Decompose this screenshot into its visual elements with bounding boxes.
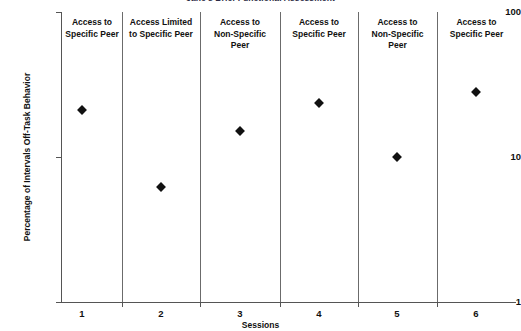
x-tick-label-2: 2 (141, 309, 181, 319)
phase-label-6-line2: Specific Peer (437, 29, 516, 41)
y-tick-100 (56, 12, 62, 13)
x-tick-2 (200, 302, 201, 307)
x-tick-4 (358, 302, 359, 307)
x-tick-label-3: 3 (220, 309, 260, 319)
chart-container: Jane's Brief Functional Assessment 100 1… (0, 0, 521, 331)
phase-label-5: Access to Non-Specific Peer (358, 17, 437, 52)
phase-separator-5 (437, 12, 438, 302)
data-point-session-2 (156, 182, 166, 192)
x-tick-label-4: 4 (299, 309, 339, 319)
y-tick-10 (56, 157, 62, 158)
phase-label-1-line1: Access to (62, 17, 122, 29)
phase-separator-4 (358, 12, 359, 302)
phase-label-3-line3: Peer (200, 40, 280, 52)
phase-label-1-line2: Specific Peer (62, 29, 122, 41)
phase-label-4-line2: Specific Peer (280, 29, 358, 41)
phase-label-6-line1: Access to (437, 17, 516, 29)
data-point-session-1 (77, 105, 87, 115)
x-tick-5 (437, 302, 438, 307)
phase-label-2-line2: to Specific Peer (122, 29, 200, 41)
phase-label-2-line1: Access Limited (122, 17, 200, 29)
data-point-session-6 (471, 87, 481, 97)
phase-label-3-line1: Access to (200, 17, 280, 29)
phase-label-3: Access to Non-Specific Peer (200, 17, 280, 52)
phase-label-4: Access to Specific Peer (280, 17, 358, 40)
phase-label-2: Access Limited to Specific Peer (122, 17, 200, 40)
phase-label-3-line2: Non-Specific (200, 29, 280, 41)
x-tick-3 (280, 302, 281, 307)
y-tick-1 (56, 302, 62, 303)
phase-separator-1 (122, 12, 123, 302)
data-point-session-5 (392, 152, 402, 162)
data-point-session-3 (235, 127, 245, 137)
phase-separator-2 (200, 12, 201, 302)
x-axis-title: Sessions (0, 320, 521, 330)
phase-label-5-line1: Access to (358, 17, 437, 29)
phase-label-4-line1: Access to (280, 17, 358, 29)
phase-label-5-line2: Non-Specific (358, 29, 437, 41)
x-tick-label-5: 5 (377, 309, 417, 319)
y-tick-label-100: 100 (469, 7, 521, 17)
phase-label-5-line3: Peer (358, 40, 437, 52)
chart-title: Jane's Brief Functional Assessment (0, 0, 521, 2)
y-axis-title: Percentage of Intervals Off-Task Behavio… (22, 37, 32, 277)
data-point-session-4 (314, 98, 324, 108)
phase-label-6: Access to Specific Peer (437, 17, 516, 40)
y-tick-label-10: 10 (469, 152, 521, 162)
phase-label-1: Access to Specific Peer (62, 17, 122, 40)
x-axis-line (61, 302, 516, 303)
x-tick-1 (122, 302, 123, 307)
y-tick-label-1: 1 (469, 297, 521, 307)
phase-separator-3 (280, 12, 281, 302)
x-tick-label-1: 1 (62, 309, 102, 319)
x-tick-label-6: 6 (456, 309, 496, 319)
